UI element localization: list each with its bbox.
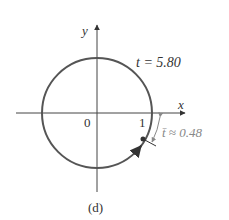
direction-arrow-icon — [136, 146, 141, 152]
t-value-label: t = 5.80 — [136, 55, 181, 70]
y-axis-label: y — [80, 23, 88, 38]
figure-caption: (d) — [88, 200, 103, 215]
x-axis-label: x — [177, 97, 184, 112]
reference-tick — [143, 139, 156, 146]
origin-label: 0 — [84, 115, 91, 130]
reference-number-label: t̄ ≈ 0.48 — [162, 125, 202, 140]
unit-label: 1 — [139, 115, 146, 130]
reference-arc-arrow — [152, 117, 160, 142]
unit-circle-diagram: y x 0 1 t = 5.80 t̄ ≈ 0.48 (d) — [0, 0, 229, 220]
